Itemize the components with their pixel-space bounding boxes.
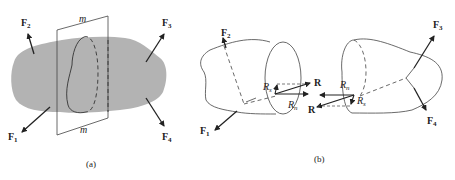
panel-a: m m F2 F1 F3 F4 (a) xyxy=(8,13,172,169)
right-normal-label: Rn xyxy=(339,79,350,92)
force-f2-label: F2 xyxy=(21,17,31,30)
force-f3-label: F3 xyxy=(162,17,172,30)
panel-b-right-part: F3 F4 R Rn Rs xyxy=(308,19,443,128)
force-f1-label: F1 xyxy=(8,131,18,144)
caption-a: (a) xyxy=(86,159,96,169)
solid-body xyxy=(11,37,166,113)
left-shear-arrow xyxy=(275,85,277,94)
left-resultant-arrow xyxy=(275,83,310,94)
left-f1-label: F1 xyxy=(200,125,210,138)
internal-forces-diagram: m m F2 F1 F3 F4 (a) F2 F1 R Rs R xyxy=(0,0,455,180)
force-f4-arrow xyxy=(146,98,164,126)
right-f3-label: F3 xyxy=(433,19,443,32)
right-shear-label: Rs xyxy=(356,95,366,108)
left-resultant-label: R xyxy=(314,77,322,88)
plane-label-top: m xyxy=(79,13,86,24)
right-f4-label: F4 xyxy=(427,115,437,128)
left-f2-label: F2 xyxy=(221,27,231,40)
force-f4-label: F4 xyxy=(162,131,172,144)
left-normal-label: Rn xyxy=(287,99,298,112)
right-resultant-label: R xyxy=(308,104,316,115)
left-shear-label: Rs xyxy=(262,81,272,94)
right-resultant-arrow xyxy=(317,95,354,107)
panel-b-left-part: F2 F1 R Rs Rn xyxy=(200,27,322,138)
plane-label-bottom: m xyxy=(80,124,87,135)
force-f1-arrow xyxy=(22,107,50,132)
caption-b: (b) xyxy=(314,154,325,164)
